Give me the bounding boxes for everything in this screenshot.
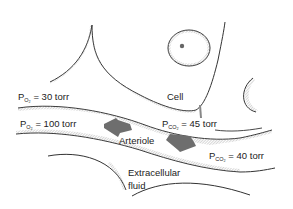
lower-right-cell-membrane (132, 183, 250, 196)
right-cell-membrane (244, 78, 258, 112)
po2-tissue-label: PO₂ = 30 torr (18, 91, 69, 103)
extracellular-label-line1: Extracellular (128, 167, 180, 178)
gas-exchange-diagram: PO₂ = 30 torr PO₂ = 100 torr PCO₂ = 45 t… (0, 0, 293, 209)
lower-left-cell-membrane (48, 154, 126, 190)
cell-label: Cell (167, 91, 183, 102)
extracellular-label-line2: fluid (128, 180, 145, 191)
po2-arteriole-label: PO₂ = 100 torr (20, 118, 76, 130)
pco2-arteriole-label: PCO₂ = 40 torr (209, 150, 264, 162)
pco2-tissue-label: PCO₂ = 45 torr (162, 118, 217, 130)
arteriole-label: Arteriole (119, 135, 154, 146)
left-cell-membrane (50, 25, 92, 84)
cell-nucleus (168, 30, 210, 66)
